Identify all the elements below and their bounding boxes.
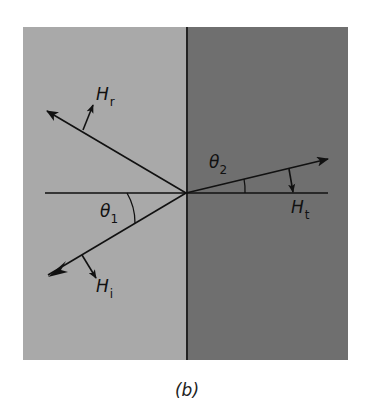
reflection-transmission-diagram: θ1 θ2 Hr Hi Ht (b): [0, 0, 366, 417]
figure-caption: (b): [175, 380, 199, 400]
